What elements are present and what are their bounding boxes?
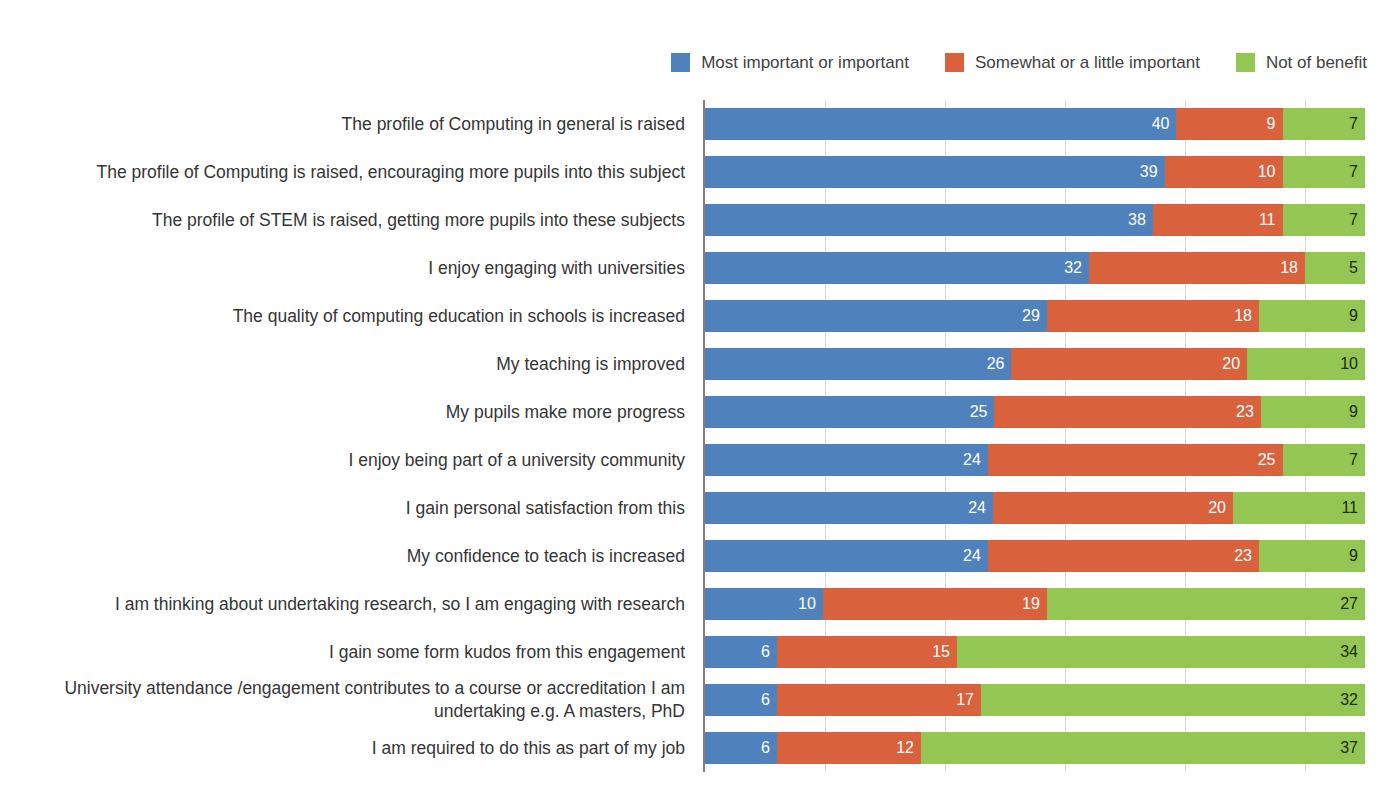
bar-row: 4097	[705, 108, 1365, 140]
bar-segment[interactable]: 10	[1165, 156, 1283, 188]
legend-item[interactable]: Somewhat or a little important	[945, 53, 1200, 72]
bar-value-label: 32	[1064, 260, 1089, 276]
bar-row: 24257	[705, 444, 1365, 476]
bar-segment[interactable]: 7	[1283, 108, 1366, 140]
bar-value-label: 12	[896, 740, 921, 756]
category-label: The profile of STEM is raised, getting m…	[0, 196, 685, 244]
category-label-text: My pupils make more progress	[446, 401, 685, 424]
bar-segment[interactable]: 25	[988, 444, 1283, 476]
bar-row: 262010	[705, 348, 1365, 380]
bar-value-label: 15	[932, 644, 957, 660]
bar-segment[interactable]: 5	[1305, 252, 1365, 284]
legend-swatch-green	[1236, 53, 1255, 72]
bar-row: 61732	[705, 684, 1365, 716]
bar-segment[interactable]: 38	[705, 204, 1153, 236]
bar-segment[interactable]: 7	[1283, 444, 1366, 476]
bar-value-label: 9	[1349, 548, 1365, 564]
bar-segment[interactable]: 18	[1089, 252, 1305, 284]
category-label-text: I enjoy being part of a university commu…	[348, 449, 685, 472]
bar-segment[interactable]: 27	[1047, 588, 1365, 620]
bar-segment[interactable]: 10	[705, 588, 823, 620]
category-label: My pupils make more progress	[0, 388, 685, 436]
category-label-text: I gain personal satisfaction from this	[406, 497, 685, 520]
legend-item-label: Not of benefit	[1266, 54, 1367, 71]
bar-segment[interactable]: 19	[823, 588, 1047, 620]
bar-value-label: 17	[956, 692, 981, 708]
bar-segment[interactable]: 20	[1011, 348, 1247, 380]
bar-row: 32185	[705, 252, 1365, 284]
bar-segment[interactable]: 10	[1247, 348, 1365, 380]
bar-value-label: 19	[1022, 596, 1047, 612]
bar-value-label: 26	[987, 356, 1012, 372]
bar-segment[interactable]: 25	[705, 396, 994, 428]
bar-segment[interactable]: 15	[777, 636, 957, 668]
category-label: My confidence to teach is increased	[0, 532, 685, 580]
bar-value-label: 7	[1349, 164, 1365, 180]
bar-segment[interactable]: 34	[957, 636, 1365, 668]
category-label: I gain some form kudos from this engagem…	[0, 628, 685, 676]
bar-row: 25239	[705, 396, 1365, 428]
bar-value-label: 24	[963, 452, 988, 468]
bar-value-label: 29	[1022, 308, 1047, 324]
bar-segment[interactable]: 29	[705, 300, 1047, 332]
legend-item[interactable]: Not of benefit	[1236, 53, 1367, 72]
category-label: The profile of Computing is raised, enco…	[0, 148, 685, 196]
bar-value-label: 24	[963, 548, 988, 564]
bar-segment[interactable]: 37	[921, 732, 1365, 764]
category-label: University attendance /engagement contri…	[0, 676, 685, 724]
bar-value-label: 25	[1258, 452, 1283, 468]
bar-segment[interactable]: 7	[1283, 156, 1366, 188]
bar-segment[interactable]: 23	[988, 540, 1259, 572]
bar-value-label: 7	[1349, 452, 1365, 468]
bar-row: 24239	[705, 540, 1365, 572]
bar-value-label: 23	[1236, 404, 1261, 420]
category-label-text: The quality of computing education in sc…	[233, 305, 685, 328]
legend-item[interactable]: Most important or important	[671, 53, 909, 72]
bar-value-label: 9	[1267, 116, 1283, 132]
bar-segment[interactable]: 17	[777, 684, 981, 716]
bar-segment[interactable]: 11	[1233, 492, 1365, 524]
legend-item-label: Most important or important	[701, 54, 909, 71]
category-axis-labels: The profile of Computing in general is r…	[0, 100, 695, 772]
bar-value-label: 18	[1234, 308, 1259, 324]
category-label: The quality of computing education in sc…	[0, 292, 685, 340]
bar-segment[interactable]: 40	[705, 108, 1176, 140]
bar-segment[interactable]: 18	[1047, 300, 1259, 332]
bar-value-label: 23	[1234, 548, 1259, 564]
category-label-text: I gain some form kudos from this engagem…	[329, 641, 685, 664]
category-label-text: The profile of Computing in general is r…	[342, 113, 685, 136]
bar-segment[interactable]: 20	[993, 492, 1233, 524]
category-label: I enjoy engaging with universities	[0, 244, 685, 292]
bar-value-label: 7	[1349, 116, 1365, 132]
bar-row: 61237	[705, 732, 1365, 764]
bar-value-label: 11	[1341, 500, 1365, 516]
bar-value-label: 5	[1349, 260, 1365, 276]
bar-segment[interactable]: 6	[705, 732, 777, 764]
bar-segment[interactable]: 6	[705, 636, 777, 668]
category-label-text: The profile of Computing is raised, enco…	[96, 161, 685, 184]
bar-segment[interactable]: 24	[705, 492, 993, 524]
bar-row: 39107	[705, 156, 1365, 188]
bar-segment[interactable]: 24	[705, 540, 988, 572]
bar-segment[interactable]: 26	[705, 348, 1011, 380]
legend-swatch-orange	[945, 53, 964, 72]
bar-segment[interactable]: 39	[705, 156, 1165, 188]
bar-segment[interactable]: 7	[1283, 204, 1366, 236]
chart-legend: Most important or importantSomewhat or a…	[0, 47, 1389, 77]
bar-segment[interactable]: 24	[705, 444, 988, 476]
bar-value-label: 37	[1340, 740, 1365, 756]
bar-segment[interactable]: 9	[1259, 540, 1365, 572]
bar-value-label: 6	[761, 644, 777, 660]
bar-segment[interactable]: 32	[705, 252, 1089, 284]
bar-segment[interactable]: 11	[1153, 204, 1283, 236]
bar-segment[interactable]: 32	[981, 684, 1365, 716]
bar-segment[interactable]: 12	[777, 732, 921, 764]
bar-segment[interactable]: 9	[1176, 108, 1282, 140]
bar-segment[interactable]: 23	[994, 396, 1260, 428]
bar-segment[interactable]: 9	[1259, 300, 1365, 332]
legend-item-label: Somewhat or a little important	[975, 54, 1200, 71]
bar-segment[interactable]: 9	[1261, 396, 1365, 428]
category-label: I enjoy being part of a university commu…	[0, 436, 685, 484]
legend-swatch-blue	[671, 53, 690, 72]
bar-segment[interactable]: 6	[705, 684, 777, 716]
